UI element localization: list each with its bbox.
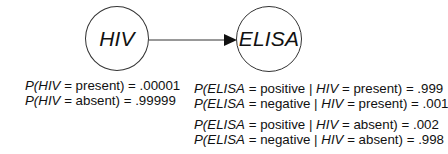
prob-value: .001 bbox=[423, 96, 448, 111]
prob-mid: = positive | bbox=[245, 81, 316, 96]
prob-prefix: P( bbox=[194, 81, 207, 96]
prob-value: .998 bbox=[418, 132, 444, 147]
prob-mid: = absent) = bbox=[338, 117, 413, 132]
prob-hiv-present: P(HIV = present) = .00001 bbox=[25, 78, 180, 93]
prob-elisa-positive-hiv-present: P(ELISA = positive | HIV = present) = .9… bbox=[194, 81, 448, 96]
prob-var: ELISA bbox=[207, 117, 245, 132]
prob-value: .002 bbox=[413, 117, 439, 132]
elisa-given-hiv-present-table: P(ELISA = positive | HIV = present) = .9… bbox=[194, 81, 448, 111]
prob-cond-var: HIV bbox=[316, 81, 338, 96]
prob-prefix: P( bbox=[25, 93, 38, 108]
prob-mid: = present) = bbox=[338, 81, 417, 96]
node-hiv: HIV bbox=[85, 6, 149, 71]
prob-cond-var: HIV bbox=[321, 132, 343, 147]
hiv-prior-table: P(HIV = present) = .00001 P(HIV = absent… bbox=[25, 78, 180, 108]
prob-value: .99999 bbox=[135, 93, 176, 108]
bayes-net-diagram: HIV ELISA P(HIV = present) = .00001 P(HI… bbox=[0, 0, 448, 154]
prob-var: HIV bbox=[38, 93, 60, 108]
prob-prefix: P( bbox=[194, 96, 207, 111]
prob-mid: = absent) = bbox=[60, 93, 135, 108]
prob-var: ELISA bbox=[207, 81, 245, 96]
node-elisa-label: ELISA bbox=[239, 27, 300, 51]
prob-elisa-negative-hiv-absent: P(ELISA = negative | HIV = absent) = .99… bbox=[194, 132, 444, 147]
prob-mid: = present) = bbox=[60, 78, 139, 93]
prob-elisa-negative-hiv-present: P(ELISA = negative | HIV = present) = .0… bbox=[194, 96, 448, 111]
prob-mid: = present) = bbox=[343, 96, 422, 111]
prob-mid: = absent) = bbox=[343, 132, 418, 147]
prob-prefix: P( bbox=[25, 78, 38, 93]
prob-mid: = positive | bbox=[245, 117, 316, 132]
prob-elisa-positive-hiv-absent: P(ELISA = positive | HIV = absent) = .00… bbox=[194, 117, 444, 132]
prob-var: ELISA bbox=[207, 96, 245, 111]
prob-var: ELISA bbox=[207, 132, 245, 147]
prob-cond-var: HIV bbox=[316, 117, 338, 132]
elisa-given-hiv-absent-table: P(ELISA = positive | HIV = absent) = .00… bbox=[194, 117, 444, 147]
prob-hiv-absent: P(HIV = absent) = .99999 bbox=[25, 93, 180, 108]
prob-var: HIV bbox=[38, 78, 60, 93]
prob-cond-var: HIV bbox=[321, 96, 343, 111]
node-elisa: ELISA bbox=[236, 6, 302, 72]
prob-value: .00001 bbox=[140, 78, 181, 93]
prob-prefix: P( bbox=[194, 117, 207, 132]
prob-mid: = negative | bbox=[245, 132, 321, 147]
prob-mid: = negative | bbox=[245, 96, 321, 111]
prob-value: .999 bbox=[417, 81, 443, 96]
node-hiv-label: HIV bbox=[99, 27, 135, 51]
prob-prefix: P( bbox=[194, 132, 207, 147]
